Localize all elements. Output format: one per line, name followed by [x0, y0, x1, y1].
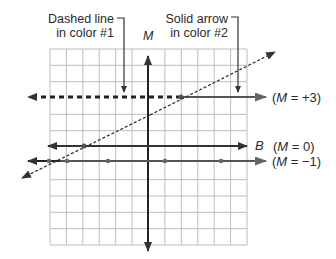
value: = −1) — [287, 154, 321, 169]
label-m-zero: (M = 0) — [273, 140, 315, 154]
m-axis-label: M — [143, 29, 153, 43]
callout-solid-line2: in color #2 — [160, 26, 228, 40]
callout-leader-dashed — [117, 18, 124, 92]
callout-dashed-line2: in color #1 — [48, 26, 114, 40]
var-m: M — [276, 154, 287, 169]
callout-solid: Solid arrow in color #2 — [160, 12, 228, 40]
label-m-plus-3: (M = +3) — [272, 91, 321, 105]
var-m: M — [276, 90, 287, 105]
callout-dashed: Dashed line in color #1 — [48, 12, 114, 40]
callout-dashed-line1: Dashed line — [48, 12, 114, 26]
label-m-minus-1: (M = −1) — [272, 155, 321, 169]
callout-solid-line1: Solid arrow — [160, 12, 228, 26]
value: = +3) — [287, 90, 321, 105]
callout-leader-solid — [231, 17, 238, 92]
value: = 0) — [288, 139, 314, 154]
b-line-label: B — [255, 139, 264, 153]
diagonal-dotted-line — [150, 52, 275, 115]
var-m: M — [277, 139, 288, 154]
